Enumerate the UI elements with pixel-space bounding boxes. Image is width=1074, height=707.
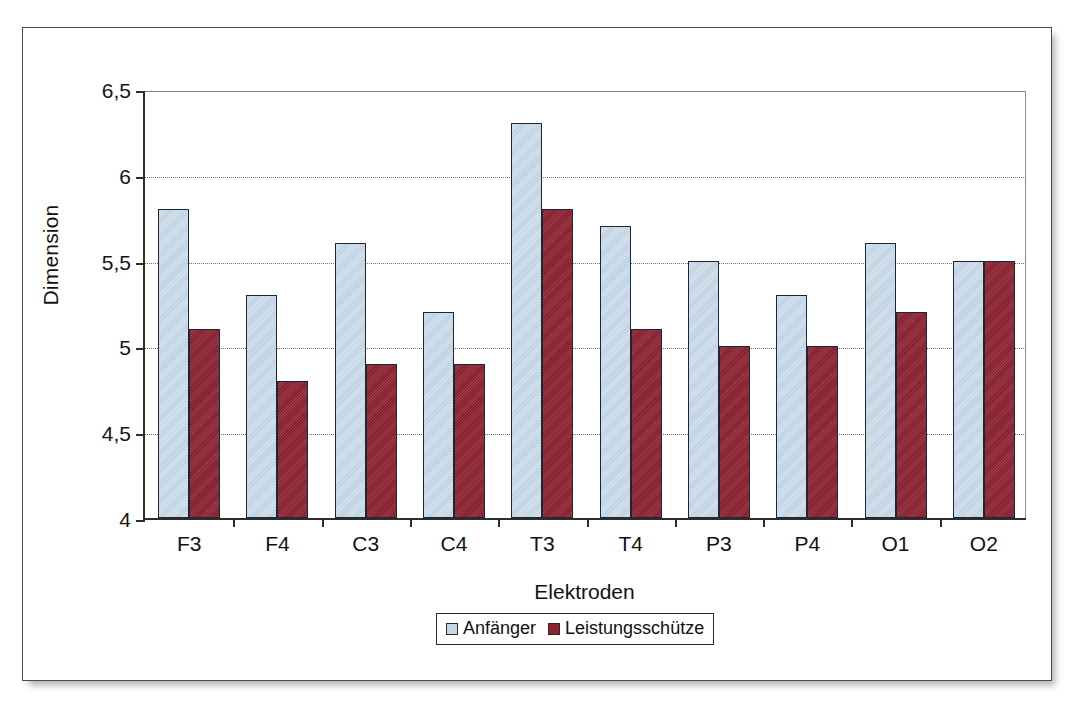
y-axis-tick xyxy=(136,434,145,436)
bar xyxy=(277,381,308,518)
chart-legend: AnfängerLeistungsschütze xyxy=(436,613,714,645)
legend-label: Anfänger xyxy=(463,618,536,639)
y-axis-tick-label: 4,5 xyxy=(102,422,131,446)
bar xyxy=(335,243,366,518)
legend-entry: Anfänger xyxy=(446,618,536,639)
bar xyxy=(896,312,927,518)
y-axis-tick-label: 5,5 xyxy=(102,251,131,275)
figure-frame: Dimension 44,555,566,5 F3F4C3C4T3T4P3P4O… xyxy=(22,27,1052,681)
bar xyxy=(366,364,397,518)
x-axis-tick xyxy=(851,518,853,527)
x-axis-category-label: C4 xyxy=(441,532,468,556)
bar xyxy=(542,209,573,518)
bar xyxy=(953,261,984,518)
bar xyxy=(776,295,807,518)
plot-right-border xyxy=(1025,91,1026,518)
y-axis-tick xyxy=(136,348,145,350)
x-axis-tick xyxy=(498,518,500,527)
bar xyxy=(246,295,277,518)
y-axis-tick xyxy=(136,91,145,93)
x-axis-title: Elektroden xyxy=(143,580,1026,604)
y-axis-tick xyxy=(136,520,145,522)
x-axis-tick xyxy=(322,518,324,527)
x-axis-tick xyxy=(233,518,235,527)
x-axis-tick xyxy=(763,518,765,527)
y-axis-tick-label: 5 xyxy=(119,336,131,360)
legend-entry: Leistungsschütze xyxy=(548,618,704,639)
bar xyxy=(865,243,896,518)
x-axis-tick xyxy=(675,518,677,527)
x-axis-category-label: T4 xyxy=(618,532,643,556)
x-axis-category-label: O1 xyxy=(882,532,910,556)
gridline xyxy=(145,91,1026,92)
bar xyxy=(807,346,838,518)
x-axis-tick xyxy=(940,518,942,527)
bar xyxy=(511,123,542,518)
bar xyxy=(423,312,454,518)
x-axis-category-label: T3 xyxy=(530,532,555,556)
bar xyxy=(600,226,631,518)
bar xyxy=(189,329,220,518)
x-axis-category-label: C3 xyxy=(352,532,379,556)
y-axis-tick-label: 6 xyxy=(119,165,131,189)
x-axis-category-label: P3 xyxy=(706,532,732,556)
y-axis-tick xyxy=(136,177,145,179)
bar xyxy=(688,261,719,518)
bar xyxy=(984,261,1015,518)
bar-chart: Dimension 44,555,566,5 F3F4C3C4T3T4P3P4O… xyxy=(23,28,1053,682)
x-axis-category-label: O2 xyxy=(970,532,998,556)
plot-area: 44,555,566,5 F3F4C3C4T3T4P3P4O1O2 xyxy=(143,91,1026,520)
x-axis-category-label: F3 xyxy=(177,532,202,556)
legend-swatch-icon xyxy=(446,623,458,635)
bar xyxy=(719,346,750,518)
gridline xyxy=(145,177,1026,178)
x-axis-tick xyxy=(410,518,412,527)
x-axis-category-label: P4 xyxy=(794,532,820,556)
y-axis-title: Dimension xyxy=(39,165,63,345)
bar xyxy=(158,209,189,518)
x-axis-tick xyxy=(587,518,589,527)
bar xyxy=(454,364,485,518)
legend-swatch-icon xyxy=(548,623,560,635)
y-axis-tick-label: 6,5 xyxy=(102,79,131,103)
y-axis-tick-label: 4 xyxy=(119,508,131,532)
bar xyxy=(631,329,662,518)
legend-label: Leistungsschütze xyxy=(565,618,704,639)
x-axis-category-label: F4 xyxy=(265,532,290,556)
y-axis-tick xyxy=(136,263,145,265)
